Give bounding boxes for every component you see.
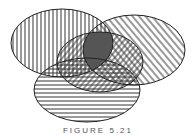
figure-caption: FIGURE 5.21 xyxy=(0,126,196,135)
venn-diagram xyxy=(0,0,196,135)
